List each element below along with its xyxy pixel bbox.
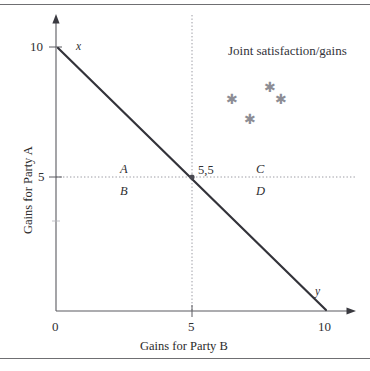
x-axis-title: Gains for Party B [140,340,228,353]
quadrant-label-a: A [120,163,128,176]
chart-title: Joint satisfaction/gains [228,44,347,57]
chart-figure: ✱ ✱ ✱ ✱ Joint satisfaction/gains 10 5 0 … [0,0,370,371]
quadrant-label-b: B [120,185,128,198]
x-axis-arrowhead [347,307,357,314]
scatter-asterisk-3: ✱ [275,92,287,107]
x-tick-label-5: 5 [188,320,195,333]
frontier-endpoint-label-x: x [76,41,81,53]
center-coordinate-label: 5,5 [198,164,214,177]
x-tick-label-10: 10 [318,320,331,333]
quadrant-label-d: D [256,185,265,198]
scatter-asterisk-1: ✱ [226,92,238,107]
x-tick-label-0: 0 [52,320,59,333]
y-axis-arrowhead [52,14,59,24]
center-point-marker [189,174,194,179]
quadrant-label-c: C [256,163,264,176]
scatter-asterisk-4: ✱ [244,112,256,127]
y-tick-label-10: 10 [30,40,43,53]
y-tick-label-5: 5 [38,170,45,183]
frontier-endpoint-label-y: y [315,286,320,298]
y-axis-title: Gains for Party A [22,146,35,234]
